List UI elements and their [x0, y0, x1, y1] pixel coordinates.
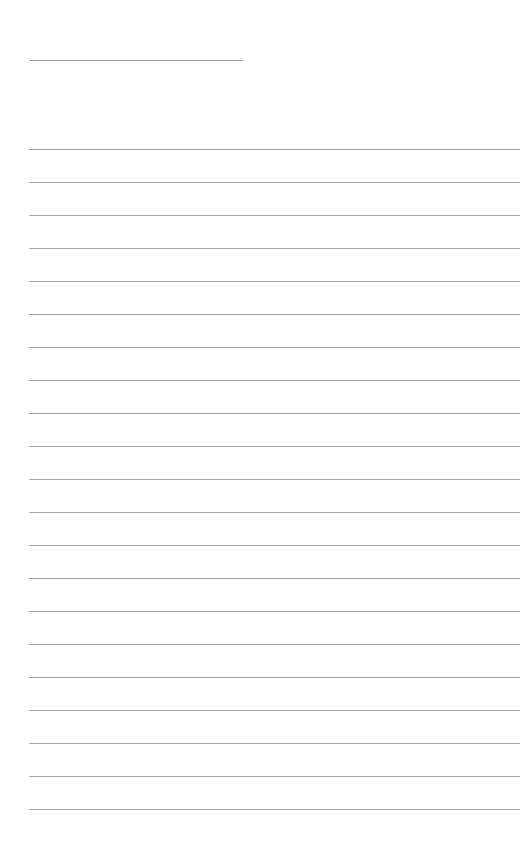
ruled-line	[29, 644, 520, 645]
ruled-line	[29, 314, 520, 315]
ruled-line	[29, 512, 520, 513]
ruled-line	[29, 776, 520, 777]
ruled-line	[29, 281, 520, 282]
ruled-line	[29, 182, 520, 183]
ruled-line	[29, 479, 520, 480]
ruled-line	[29, 446, 520, 447]
ruled-line	[29, 611, 520, 612]
ruled-line	[29, 347, 520, 348]
ruled-line	[29, 149, 520, 150]
title-line	[30, 60, 243, 61]
ruled-line	[29, 215, 520, 216]
ruled-line	[29, 545, 520, 546]
ruled-line	[29, 578, 520, 579]
ruled-line	[29, 677, 520, 678]
ruled-line	[29, 380, 520, 381]
ruled-line	[29, 248, 520, 249]
ruled-line	[29, 809, 520, 810]
ruled-line	[29, 710, 520, 711]
ruled-line	[29, 743, 520, 744]
ruled-line	[29, 413, 520, 414]
